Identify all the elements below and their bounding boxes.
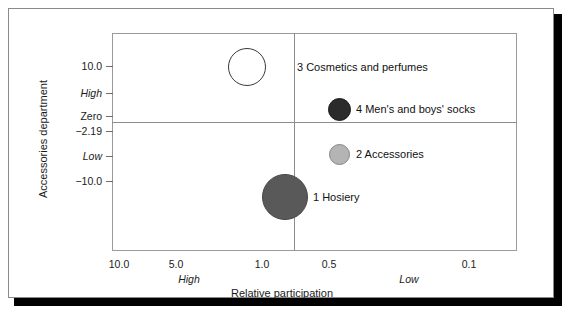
bubble-cosmetics-and-perfumes[interactable] — [228, 48, 266, 86]
bubble-label-cosmetics-and-perfumes: 3 Cosmetics and perfumes — [297, 61, 428, 73]
y-axis-tick-mark — [106, 93, 113, 94]
x-axis-title: Relative participation — [9, 287, 555, 299]
zero-reference-line — [112, 122, 517, 123]
y-axis-tick-mark — [106, 66, 113, 67]
bubble-label-hosiery: 1 Hosiery — [313, 191, 359, 203]
y-axis-tick-mark — [106, 116, 113, 117]
bubble-mens-and-boys-socks[interactable] — [328, 98, 351, 121]
x-axis-tick-label: 5.0 — [169, 258, 184, 270]
cropped-caption-row — [0, 0, 575, 7]
y-axis-tick-label: −10.0 — [50, 176, 102, 187]
x-axis-tick-label: 10.0 — [109, 258, 129, 270]
bubble-accessories[interactable] — [329, 144, 350, 165]
y-axis-tick-label: −2.19 — [50, 126, 102, 137]
y-axis-tick-label: Low — [50, 151, 102, 162]
x-axis-sublabel: Low — [399, 273, 418, 285]
vertical-reference-line — [294, 33, 295, 251]
x-axis-tick-label: 0.1 — [462, 258, 477, 270]
x-axis-sublabel: High — [178, 273, 200, 285]
y-axis-tick-mark — [106, 131, 113, 132]
bubble-label-mens-and-boys-socks: 4 Men's and boys' socks — [356, 103, 475, 115]
y-axis-tick-label: Zero — [50, 111, 102, 122]
bubble-label-accessories: 2 Accessories — [356, 148, 424, 160]
y-axis-tick-mark — [106, 156, 113, 157]
y-axis-tick-group: 10.0HighZero−2.19Low−10.0 — [50, 9, 102, 299]
figure-container: Accessories department 10.0HighZero−2.19… — [0, 0, 575, 314]
y-axis-tick-label: High — [50, 88, 102, 99]
x-axis-tick-label: 0.5 — [322, 258, 337, 270]
x-axis-tick-label: 1.0 — [255, 258, 270, 270]
y-axis-tick-mark — [106, 181, 113, 182]
y-axis-tick-label: 10.0 — [50, 61, 102, 72]
chart-card: Accessories department 10.0HighZero−2.19… — [8, 8, 554, 298]
y-axis-title: Accessories department — [37, 39, 49, 239]
bubble-hosiery[interactable] — [262, 174, 308, 220]
